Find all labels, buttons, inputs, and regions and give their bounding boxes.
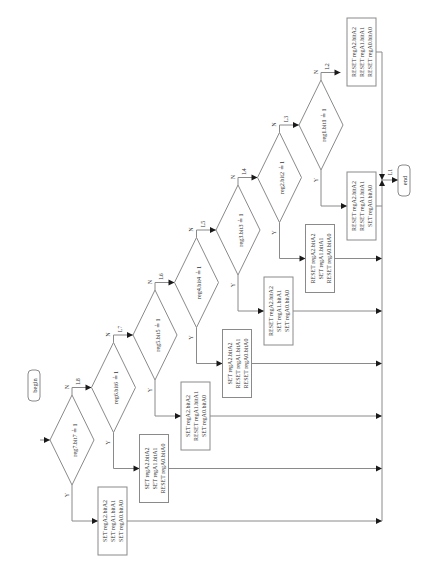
no-label: N (229, 174, 236, 179)
end-label: end (401, 175, 408, 185)
action-text: RESET regA0.bitA0 (243, 339, 249, 389)
yes-connector (238, 275, 264, 311)
flowchart-svg: beginreg7.bit7 ≟ 1YSET regA2.bitA2SET re… (0, 0, 432, 575)
jump-label: L3 (283, 116, 289, 123)
jump-label: L4 (241, 168, 247, 175)
action-text: SET regA0.bitA0 (367, 185, 373, 227)
arrow-head-icon (258, 308, 264, 314)
arrow-head-icon (293, 122, 299, 128)
arrow-head-icon (86, 385, 92, 391)
arrow-head-icon (376, 518, 382, 524)
action-text: RESET regA0.bitA0 (326, 234, 332, 284)
action-text: SET regA1.bitA1 (318, 237, 324, 279)
arrow-head-icon (392, 177, 398, 183)
action-text: RESET regA0.bitA0 (160, 444, 166, 494)
yes-label: Y (104, 440, 111, 445)
yes-label: Y (63, 492, 70, 497)
no-label: N (270, 122, 277, 127)
arrow-head-icon (376, 308, 382, 314)
action-text: SET regA1.bitA1 (110, 500, 116, 542)
yes-connector (114, 433, 140, 469)
yes-label: Y (312, 177, 319, 182)
action-text: RESET regA1.bitA1 (235, 339, 241, 389)
action-text: RESET regA0.bitA0 (367, 27, 373, 77)
action-text: RESET regA1.bitA1 (359, 27, 365, 77)
arrow-head-icon (44, 437, 50, 443)
arrow-head-icon (127, 332, 133, 338)
begin-label: begin (31, 378, 38, 393)
merge-arrow-up-icon (379, 180, 385, 186)
action-text: SET regA2.bitA2 (185, 395, 191, 437)
flowchart: beginreg7.bit7 ≟ 1YSET regA2.bitA2SET re… (0, 0, 432, 575)
arrow-head-icon (175, 413, 181, 419)
jump-label: L6 (158, 273, 164, 280)
yes-connector (155, 380, 181, 416)
action-text: SET regA2.bitA2 (227, 342, 233, 384)
yes-label: Y (187, 335, 194, 340)
action-text: SET regA0.bitA0 (118, 500, 124, 542)
yes-label: Y (146, 387, 153, 392)
decision-condition: reg4.bit4 ≟ 1 (195, 266, 202, 299)
arrow-head-icon (376, 413, 382, 419)
action-text: SET regA2.bitA2 (144, 447, 150, 489)
decision-condition: reg3.bit3 ≟ 1 (237, 213, 244, 246)
action-text: SET regA0.bitA0 (201, 395, 207, 437)
action-text: RESET regA1.bitA1 (359, 181, 365, 231)
arrow-head-icon (376, 361, 382, 367)
decision-condition: reg7.bit7 ≟ 1 (71, 423, 78, 456)
jump-label: L5 (200, 221, 206, 228)
jump-label: L7 (117, 326, 123, 333)
decision-condition: reg1.bit1 ≟ 1 (320, 108, 327, 141)
yes-label: Y (270, 230, 277, 235)
no-label: N (312, 69, 319, 74)
arrow-head-icon (300, 256, 306, 262)
yes-connector (72, 485, 98, 521)
jump-label: L2 (324, 63, 330, 70)
action-text: SET regA2.bitA2 (102, 500, 108, 542)
yes-connector (321, 170, 347, 206)
action-text: RESET regA2.bitA2 (268, 286, 274, 336)
no-label: N (187, 227, 194, 232)
arrow-head-icon (335, 70, 341, 76)
arrow-head-icon (92, 518, 98, 524)
arrow-head-icon (376, 256, 382, 262)
action-text: SET regA1.bitA1 (276, 290, 282, 332)
arrow-head-icon (217, 361, 223, 367)
arrow-head-icon (252, 175, 258, 181)
arrow-head-icon (376, 466, 382, 472)
arrow-head-icon (210, 227, 216, 233)
action-text: SET regA0.bitA0 (284, 290, 290, 332)
arrow-head-icon (134, 466, 140, 472)
arrow-head-icon (169, 280, 175, 286)
yes-connector (197, 328, 223, 364)
no-label: N (104, 332, 111, 337)
no-label: N (146, 279, 153, 284)
merge-label: L1 (387, 169, 393, 176)
action-text: SET regA1.bitA1 (152, 447, 158, 489)
action-text: RESET regA1.bitA1 (193, 391, 199, 441)
jump-label: L8 (75, 378, 81, 385)
decision-condition: reg2.bit2 ≟ 1 (278, 161, 285, 194)
action-text: RESET regA2.bitA2 (351, 27, 357, 77)
yes-connector (280, 223, 306, 259)
action-text: RESET regA2.bitA2 (351, 181, 357, 231)
merge-arrow-down-icon (379, 174, 385, 180)
no-label: N (63, 384, 70, 389)
decision-condition: reg6.bit6 ≟ 1 (112, 371, 119, 404)
arrow-head-icon (341, 203, 347, 209)
yes-label: Y (229, 282, 236, 287)
decision-condition: reg5.bit5 ≟ 1 (154, 318, 161, 351)
action-text: RESET regA2.bitA2 (310, 234, 316, 284)
